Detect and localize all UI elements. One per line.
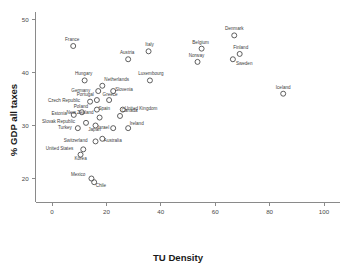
point-marker — [94, 98, 99, 103]
point-label: United States — [46, 146, 74, 151]
point-marker — [107, 98, 112, 103]
y-axis-ticks: 20304050 — [22, 16, 36, 182]
point-marker — [88, 99, 93, 104]
data-point: Luxembourg — [138, 71, 164, 83]
point-marker — [146, 49, 151, 54]
data-point: France — [65, 37, 80, 49]
point-marker — [96, 89, 101, 94]
point-label: Korea — [74, 156, 87, 161]
point-label: Spain — [98, 106, 110, 111]
point-label: Sweden — [236, 61, 253, 66]
point-marker — [118, 113, 123, 118]
data-point: Austria — [120, 50, 135, 62]
x-tick-label: 20 — [103, 208, 110, 215]
point-label: Austria — [120, 50, 135, 55]
point-marker — [71, 44, 76, 49]
point-label: Czech Republic — [48, 98, 81, 103]
point-marker — [93, 139, 98, 144]
point-label: Israel — [98, 125, 109, 130]
point-marker — [195, 59, 200, 64]
data-point: Korea — [74, 152, 87, 161]
x-tick-label: 0 — [50, 208, 54, 215]
plot-canvas: 020406080100 20304050 FranceItalyDenmark… — [0, 0, 342, 265]
data-point: Belgium — [192, 40, 209, 52]
point-label: Netherlands — [104, 77, 129, 82]
point-label: Canada — [122, 108, 139, 113]
point-label: Italy — [145, 42, 154, 47]
data-point: Italy — [145, 42, 154, 54]
data-point: Switzerland — [64, 138, 98, 144]
point-label: Norway — [189, 53, 205, 58]
y-tick-label: 20 — [22, 175, 29, 182]
point-label: Australia — [104, 138, 122, 143]
point-marker — [84, 120, 89, 125]
y-tick-label: 30 — [22, 122, 29, 129]
point-label: Denmark — [225, 26, 244, 31]
point-marker — [199, 46, 204, 51]
data-point: Czech Republic — [48, 98, 93, 104]
data-point: Finland — [233, 45, 249, 57]
point-marker — [100, 83, 105, 88]
x-tick-label: 40 — [157, 208, 164, 215]
x-tick-label: 60 — [212, 208, 219, 215]
point-label: Slovak Republic — [42, 119, 76, 124]
y-tick-label: 50 — [22, 16, 29, 23]
data-point: United States — [46, 146, 86, 152]
data-point: Iceland — [276, 85, 291, 97]
y-axis-title: % GDP all taxes — [8, 84, 19, 156]
data-point: Denmark — [225, 26, 244, 38]
point-label: Iceland — [276, 85, 291, 90]
data-point: Australia — [100, 136, 122, 143]
point-label: Slovenia — [115, 87, 133, 92]
data-point: Sweden — [230, 57, 253, 67]
point-label: Switzerland — [64, 138, 88, 143]
point-label: France — [65, 37, 80, 42]
point-marker — [126, 57, 131, 62]
x-tick-label: 100 — [319, 208, 330, 215]
point-label: Luxembourg — [138, 71, 164, 76]
point-label: Finland — [233, 45, 249, 50]
point-label: Turkey — [58, 125, 73, 130]
point-marker — [97, 115, 102, 120]
point-marker — [147, 78, 152, 83]
point-label: Ireland — [130, 121, 144, 126]
point-marker — [126, 126, 131, 131]
point-marker — [237, 51, 242, 56]
point-marker — [82, 78, 87, 83]
data-point: Norway — [189, 53, 205, 65]
data-point: Chile — [92, 180, 107, 188]
x-axis-title: TU Density — [153, 252, 204, 263]
x-tick-label: 80 — [266, 208, 273, 215]
data-point: Canada — [118, 108, 139, 118]
point-marker — [232, 33, 237, 38]
point-label: Belgium — [192, 40, 209, 45]
point-marker — [81, 147, 86, 152]
point-marker — [75, 126, 80, 131]
point-marker — [111, 126, 116, 131]
point-label: Estonia — [51, 111, 67, 116]
data-point: Spain — [94, 106, 110, 112]
data-point: Mexico — [71, 172, 94, 181]
point-label: Hungary — [75, 71, 93, 76]
scatter-plot-figure: 020406080100 20304050 FranceItalyDenmark… — [0, 0, 342, 265]
point-label: Greece — [103, 92, 119, 97]
x-axis-ticks: 020406080100 — [50, 202, 329, 215]
point-label: Portugal — [77, 92, 94, 97]
point-label: Mexico — [71, 172, 86, 177]
point-marker — [230, 57, 235, 62]
y-tick-label: 40 — [22, 69, 29, 76]
data-point: Turkey — [58, 125, 80, 131]
point-marker — [281, 91, 286, 96]
point-label: Poland — [74, 104, 89, 109]
point-label: Chile — [96, 183, 107, 188]
data-point: Ireland — [126, 121, 144, 131]
point-label: New Zealand — [67, 110, 95, 115]
data-point: Greece — [103, 92, 119, 103]
data-point: Hungary — [75, 71, 93, 83]
data-points-group: FranceItalyDenmarkAustriaBelgiumFinlandS… — [42, 26, 291, 187]
